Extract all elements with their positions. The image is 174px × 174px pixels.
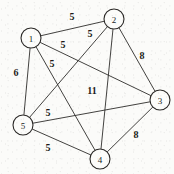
node-label-3: 3 (158, 96, 163, 106)
graph-node-4[interactable]: 4 (90, 149, 110, 169)
graph-edge-2-3 (119, 28, 155, 91)
graph-edge-3-4 (107, 107, 152, 151)
edge-weight-1-5: 6 (14, 67, 19, 78)
edge-weight-2-4: 11 (87, 85, 96, 96)
edge-weight-3-4: 8 (134, 129, 139, 140)
graph-edge-2-4 (101, 29, 113, 148)
edge-weight-1-2: 5 (70, 11, 75, 22)
edge-weight-4-5: 5 (46, 142, 51, 153)
graph-edge-3-5 (33, 102, 149, 123)
graph-node-1[interactable]: 1 (21, 28, 41, 48)
edge-weight-1-4: 5 (50, 58, 55, 69)
node-label-4: 4 (98, 155, 103, 165)
graph-edge-1-5 (24, 48, 30, 114)
edge-weight-2-3: 8 (140, 50, 145, 61)
graph-node-5[interactable]: 5 (13, 115, 33, 135)
node-label-2: 2 (112, 15, 117, 25)
node-label-1: 1 (29, 34, 34, 44)
graph-figure: 55568115855 12345 (0, 0, 174, 174)
graph-edge-4-5 (33, 129, 91, 155)
graph-edge-1-2 (41, 21, 104, 35)
graph-canvas: 55568115855 12345 (0, 0, 174, 174)
node-label-5: 5 (21, 121, 26, 131)
edge-weight-1-3: 5 (61, 39, 66, 50)
edge-weight-3-5: 5 (46, 107, 51, 118)
graph-node-2[interactable]: 2 (104, 9, 124, 29)
edge-weight-2-5: 5 (88, 28, 93, 39)
graph-node-3[interactable]: 3 (150, 90, 170, 110)
